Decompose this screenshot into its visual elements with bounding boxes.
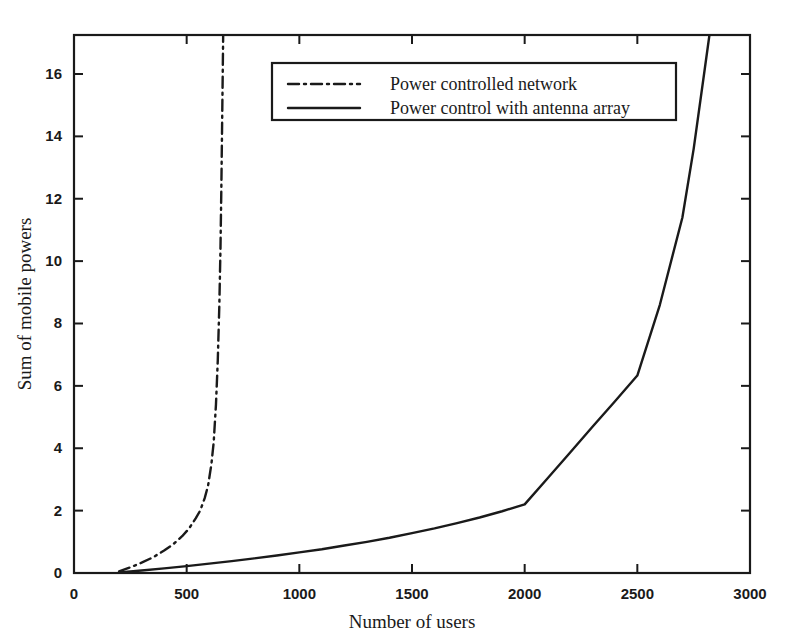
y-tick-label: 0 bbox=[54, 564, 62, 581]
y-tick-label: 16 bbox=[45, 65, 62, 82]
x-tick-label: 1500 bbox=[395, 585, 428, 602]
y-tick-label: 8 bbox=[54, 314, 62, 331]
x-axis-title: Number of users bbox=[349, 611, 476, 632]
x-tick-label: 500 bbox=[174, 585, 199, 602]
y-tick-label: 12 bbox=[45, 190, 62, 207]
legend-label-0: Power controlled network bbox=[390, 74, 577, 94]
x-tick-label: 3000 bbox=[733, 585, 766, 602]
y-tick-label: 2 bbox=[54, 502, 62, 519]
legend-label-1: Power control with antenna array bbox=[390, 98, 630, 118]
y-tick-label: 6 bbox=[54, 377, 62, 394]
chart-legend: Power controlled networkPower control wi… bbox=[272, 63, 676, 120]
x-tick-label: 2000 bbox=[508, 585, 541, 602]
x-tick-label: 2500 bbox=[621, 585, 654, 602]
x-tick-label: 1000 bbox=[283, 585, 316, 602]
y-axis-title: Sum of mobile powers bbox=[14, 218, 35, 391]
y-tick-label: 14 bbox=[45, 127, 62, 144]
x-tick-label: 0 bbox=[70, 585, 78, 602]
y-tick-label: 4 bbox=[54, 439, 63, 456]
y-tick-label: 10 bbox=[45, 252, 62, 269]
chart-figure: 050010001500200025003000 0246810121416 N… bbox=[0, 0, 799, 644]
